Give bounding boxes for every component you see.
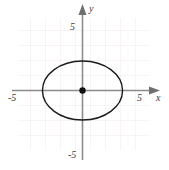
ellipse-center-point bbox=[79, 87, 85, 93]
y-axis-name-label: y bbox=[89, 4, 93, 14]
ellipse-graph-figure: 5 -5 -5 5 y x bbox=[0, 0, 169, 170]
coordinate-plane-svg bbox=[0, 0, 169, 170]
grid-lines bbox=[18, 18, 150, 150]
y-axis-arrowhead-icon bbox=[79, 4, 87, 15]
y-axis-tick-label-negative: -5 bbox=[68, 150, 76, 160]
y-axis-tick-label-positive: 5 bbox=[70, 22, 75, 32]
x-axis-tick-label-positive: 5 bbox=[137, 93, 142, 103]
x-axis-tick-label-negative: -5 bbox=[8, 93, 16, 103]
x-axis-name-label: x bbox=[156, 93, 160, 103]
